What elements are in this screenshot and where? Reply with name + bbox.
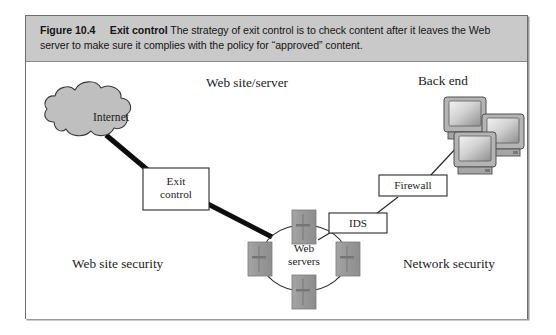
server-unit-north [292,210,316,244]
figure-caption-text: Figure 10.4 Exit control The strategy of… [40,23,513,52]
figure-frame: Figure 10.4 Exit control The strategy of… [25,15,528,319]
node-label-ids: IDS [332,217,384,230]
figure-root: Figure 10.4 Exit control The strategy of… [0,0,556,335]
link-internet-exitcontrol [106,135,150,172]
node-label-exit-control: Exit control [148,175,204,200]
internet-cloud-node [45,82,131,136]
diagram-graphics [26,62,527,319]
link-ids-firewall [376,197,398,214]
server-unit-south [292,275,316,309]
zone-label-network-security: Network security [403,257,495,272]
figure-caption-band: Figure 10.4 Exit control The strategy of… [26,16,527,62]
node-label-web-servers: Web servers [271,242,337,268]
server-unit-west [248,242,272,276]
node-label-internet: Internet [68,111,154,124]
link-exitcontrol-webservers [204,202,272,237]
back-end-monitor-cluster [444,97,524,174]
zone-label-web-site-security: Web site security [72,257,163,272]
server-unit-east [336,242,360,276]
monitor-front [454,132,496,174]
diagram-canvas: Web site/server Back end Web site securi… [26,62,527,319]
zone-label-web-site-server: Web site/server [206,76,288,91]
caption-gap [95,24,109,36]
figure-title: Exit control [110,24,168,36]
node-label-firewall: Firewall [383,179,443,192]
figure-number: Figure 10.4 [40,24,95,36]
zone-label-back-end: Back end [418,74,468,89]
